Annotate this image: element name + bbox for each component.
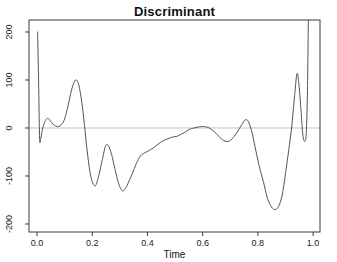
y-tick-label: 200 xyxy=(4,24,14,39)
y-tick-label: 0 xyxy=(4,125,14,130)
x-tick-label: 0.0 xyxy=(31,238,44,248)
discriminant-curve xyxy=(38,18,309,210)
y-tick-label: 100 xyxy=(4,72,14,87)
x-tick-label: 1.0 xyxy=(307,238,320,248)
y-tick-label: -100 xyxy=(4,167,14,185)
x-tick-label: 0.2 xyxy=(86,238,99,248)
x-tick-label: 0.8 xyxy=(252,238,265,248)
x-tick-label: 0.4 xyxy=(141,238,154,248)
plot-box xyxy=(29,20,320,232)
x-tick-label: 0.6 xyxy=(196,238,209,248)
y-tick-label: -200 xyxy=(4,215,14,233)
x-axis-label: Time xyxy=(29,249,320,260)
plot-area: 0.00.20.40.60.81.0-200-1000100200 xyxy=(0,0,337,262)
discriminant-figure: Discriminant 0.00.20.40.60.81.0-200-1000… xyxy=(0,0,337,262)
